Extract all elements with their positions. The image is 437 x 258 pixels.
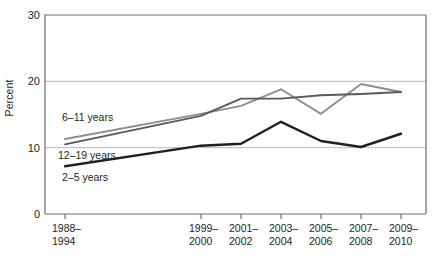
x-axis-tick-1-line1: 1999– <box>189 222 218 235</box>
series-label-2-5-years: 2–5 years <box>62 172 108 183</box>
x-axis-tick-1-line2: 2000 <box>189 235 218 248</box>
x-axis-tick-0-line2: 1994 <box>52 235 81 248</box>
x-axis-tick-2-line1: 2001– <box>229 222 258 235</box>
x-axis-tick-3: 2003– 2004 <box>269 222 298 247</box>
series-label-12-19-years: 12–19 years <box>58 150 116 161</box>
x-axis-tick-3-line1: 2003– <box>269 222 298 235</box>
x-axis-tick-6-line2: 2010 <box>389 235 418 248</box>
x-axis-tick-4: 2005– 2006 <box>309 222 338 247</box>
series-line-6-11-years <box>65 84 401 139</box>
x-axis-tick-3-line2: 2004 <box>269 235 298 248</box>
line-chart: Percent 30 20 10 0 1988– 1994 1999– 2000… <box>0 0 437 258</box>
series-label-6-11-years: 6–11 years <box>62 112 113 123</box>
series-line-12-19-years <box>65 92 401 144</box>
x-axis-tick-5: 2007– 2008 <box>349 222 378 247</box>
x-axis-tick-0: 1988– 1994 <box>52 222 81 247</box>
x-axis-tick-6-line1: 2009– <box>389 222 418 235</box>
y-axis-title: Percent <box>3 63 15 133</box>
y-axis-tick-20: 20 <box>14 76 40 87</box>
x-axis-tick-1: 1999– 2000 <box>189 222 218 247</box>
y-axis-tick-10: 10 <box>14 143 40 154</box>
x-axis-tick-4-line1: 2005– <box>309 222 338 235</box>
x-axis-tick-2-line2: 2002 <box>229 235 258 248</box>
x-axis-tick-2: 2001– 2002 <box>229 222 258 247</box>
y-axis-tick-0: 0 <box>14 209 40 220</box>
x-axis-tick-5-line1: 2007– <box>349 222 378 235</box>
x-axis-tick-5-line2: 2008 <box>349 235 378 248</box>
y-axis-tick-30: 30 <box>14 10 40 21</box>
x-axis-tick-0-line1: 1988– <box>52 222 81 235</box>
x-axis-tick-4-line2: 2006 <box>309 235 338 248</box>
x-axis-tick-6: 2009– 2010 <box>389 222 418 247</box>
plot-area <box>0 0 437 258</box>
